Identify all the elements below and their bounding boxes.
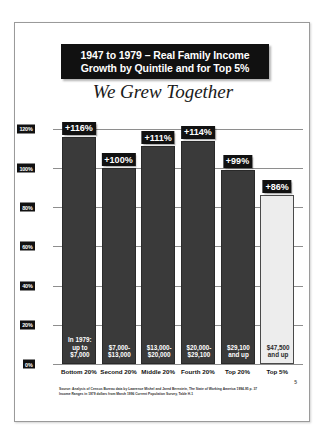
bar-group: In 1979:up to$7,000+116%Bottom 20% bbox=[62, 119, 96, 364]
bar-income-range-label: $7,000-$13,000 bbox=[103, 344, 137, 359]
bar-income-range-label: $29,100and up bbox=[222, 344, 256, 359]
x-axis-category-label: Bottom 20% bbox=[61, 368, 97, 375]
bar-income-range-label: $13,000-$20,000 bbox=[142, 344, 176, 359]
y-axis-tick-label: 100% bbox=[17, 164, 35, 173]
x-axis-category-label: Top 20% bbox=[225, 368, 250, 375]
bar-group: $20,000-$29,100+114%Fourth 20% bbox=[181, 119, 215, 364]
y-axis-tick-label: 60% bbox=[20, 242, 35, 251]
y-axis-tick-label: 120% bbox=[17, 124, 35, 133]
bar-income-range-label: $20,000-$29,100 bbox=[182, 344, 216, 359]
x-axis-category-label: Top 5% bbox=[266, 368, 288, 375]
bar: $47,500and up bbox=[260, 195, 294, 364]
bar-value-label: +111% bbox=[142, 131, 175, 144]
bar: $29,100and up bbox=[221, 170, 255, 364]
x-axis-category-label: Middle 20% bbox=[141, 368, 175, 375]
bar-group: $7,000-$13,000+100%Second 20% bbox=[102, 119, 136, 364]
bar-value-label: +116% bbox=[62, 122, 96, 135]
slide-subtitle: We Grew Together bbox=[15, 81, 311, 103]
x-axis-category-label: Fourth 20% bbox=[181, 368, 215, 375]
title-line-2: Growth by Quintile and for Top 5% bbox=[81, 62, 250, 75]
bar-chart: 0%20%40%60%80%100%120%In 1979:up to$7,00… bbox=[15, 111, 311, 376]
slide-canvas: 1947 to 1979 – Real Family Income Growth… bbox=[14, 22, 310, 422]
bar-value-label: +86% bbox=[263, 180, 292, 193]
bar-group: $29,100and up+99%Top 20% bbox=[221, 119, 255, 364]
bar: $13,000-$20,000 bbox=[141, 146, 175, 364]
bar: $20,000-$29,100 bbox=[181, 141, 215, 364]
x-axis-category-label: Second 20% bbox=[100, 368, 136, 375]
y-axis-tick-label: 0% bbox=[23, 360, 35, 369]
y-axis-tick-label: 20% bbox=[20, 320, 35, 329]
title-line-1: 1947 to 1979 – Real Family Income bbox=[81, 49, 250, 62]
plot-area: 0%20%40%60%80%100%120%In 1979:up to$7,00… bbox=[59, 119, 297, 364]
bar-income-range-label: In 1979:up to$7,000 bbox=[63, 336, 97, 359]
y-axis-tick-label: 40% bbox=[20, 281, 35, 290]
bar: In 1979:up to$7,000 bbox=[62, 137, 96, 364]
bar-group: $47,500and up+86%Top 5% bbox=[260, 119, 294, 364]
bar-value-label: +114% bbox=[181, 126, 215, 139]
bar: $7,000-$13,000 bbox=[102, 168, 136, 364]
source-line-2: Income Ranges in 1979 dollars from March… bbox=[59, 392, 299, 397]
bar-value-label: +99% bbox=[223, 155, 252, 168]
bar-income-range-label: $47,500and up bbox=[261, 344, 295, 359]
source-note: Source: Analysis of Census Bureau data b… bbox=[59, 387, 299, 396]
bar-group: $13,000-$20,000+111%Middle 20% bbox=[141, 119, 175, 364]
bar-value-label: +100% bbox=[101, 153, 135, 166]
slide-title-banner: 1947 to 1979 – Real Family Income Growth… bbox=[61, 44, 269, 79]
page-mark: 5 bbox=[294, 379, 297, 385]
gridline bbox=[53, 364, 303, 365]
y-axis-tick-label: 80% bbox=[20, 203, 35, 212]
